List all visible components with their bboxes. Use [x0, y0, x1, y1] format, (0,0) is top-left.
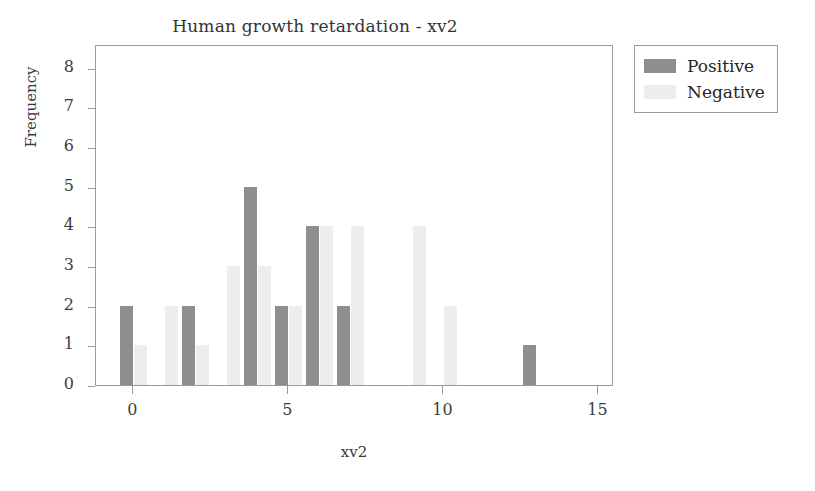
bar-negative-x7: [351, 226, 364, 385]
legend-label: Positive: [687, 56, 754, 76]
x-tick-mark: [132, 386, 133, 394]
x-tick-mark: [287, 386, 288, 394]
legend-label: Negative: [687, 82, 765, 102]
bar-negative-x2: [196, 345, 209, 385]
legend-swatch-negative-icon: [644, 85, 676, 99]
bar-negative-x0: [134, 345, 147, 385]
bar-positive-x6: [306, 226, 319, 385]
y-tick-label: 7: [34, 96, 74, 115]
y-tick-label: 5: [34, 176, 74, 195]
y-tick-label: 2: [34, 295, 74, 314]
y-tick-mark: [88, 267, 95, 268]
y-tick-mark: [88, 148, 95, 149]
y-tick-label: 8: [34, 57, 74, 76]
bar-positive-x0: [120, 306, 133, 385]
legend-swatch-positive-icon: [644, 59, 676, 73]
y-tick-label: 3: [34, 255, 74, 274]
y-tick-mark: [88, 108, 95, 109]
y-tick-label: 1: [34, 334, 74, 353]
legend-item-negative[interactable]: Negative: [644, 79, 765, 105]
bar-negative-x3: [227, 266, 240, 385]
chart-title: Human growth retardation - xv2: [0, 16, 630, 36]
y-tick-mark: [88, 386, 95, 387]
x-tick-label: 0: [107, 400, 157, 419]
bar-negative-x4: [258, 266, 271, 385]
bar-negative-x5: [289, 306, 302, 385]
x-tick-mark: [442, 386, 443, 394]
bar-positive-x5: [275, 306, 288, 385]
bar-positive-x7: [337, 306, 350, 385]
y-tick-mark: [88, 346, 95, 347]
y-tick-mark: [88, 69, 95, 70]
bar-negative-x6: [320, 226, 333, 385]
plot-frame: [95, 45, 613, 386]
x-tick-label: 15: [572, 400, 622, 419]
x-axis-label: xv2: [95, 443, 613, 461]
y-tick-label: 4: [34, 215, 74, 234]
y-tick-mark: [88, 307, 95, 308]
legend-item-positive[interactable]: Positive: [644, 53, 765, 79]
bar-negative-x10: [444, 306, 457, 385]
y-tick-mark: [88, 227, 95, 228]
y-tick-mark: [88, 188, 95, 189]
chart-legend: PositiveNegative: [634, 45, 778, 113]
bar-negative-x9: [413, 226, 426, 385]
bar-positive-x13: [523, 345, 536, 385]
y-tick-label: 6: [34, 136, 74, 155]
y-tick-label: 0: [34, 374, 74, 393]
plot-area: [96, 46, 612, 385]
bar-positive-x4: [244, 187, 257, 385]
x-tick-label: 5: [262, 400, 312, 419]
bar-positive-x2: [182, 306, 195, 385]
x-tick-label: 10: [417, 400, 467, 419]
x-tick-mark: [597, 386, 598, 394]
bar-negative-x1: [165, 306, 178, 385]
